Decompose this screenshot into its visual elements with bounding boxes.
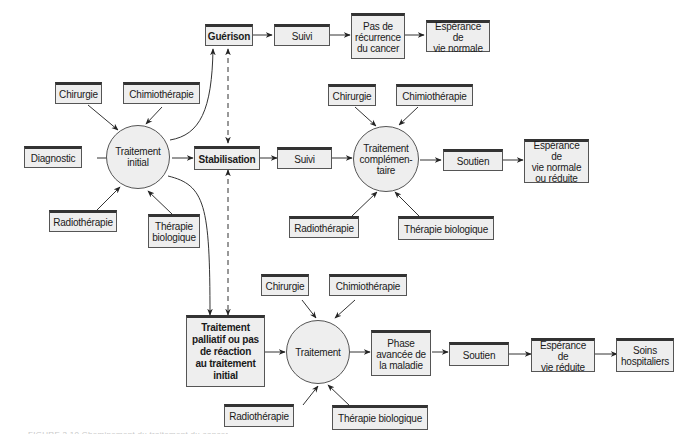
node-chimiotherapie-bottom: Chimiothérapie	[329, 274, 407, 296]
node-chimiotherapie-complementaire: Chimiothérapie	[396, 84, 473, 106]
node-diagnostic: Diagnostic	[24, 146, 82, 168]
node-soins-hospitaliers: Soins hospitaliers	[616, 338, 674, 372]
cancer-treatment-flowchart: Guérison Suivi Pas de récurrence du canc…	[0, 0, 692, 444]
node-pas-recurrence: Pas de récurrence du cancer	[351, 13, 405, 59]
node-traitement-complementaire: Traitement complémen- taire	[353, 126, 419, 192]
node-chirurgie-initial: Chirurgie	[55, 82, 102, 104]
node-chimiotherapie-initial: Chimiothérapie	[123, 82, 200, 104]
node-soutien-bottom: Soutien	[449, 342, 509, 366]
node-traitement-bottom: Traitement	[286, 320, 350, 384]
node-stabilisation: Stabilisation	[194, 146, 260, 170]
node-traitement-palliatif: Traitement palliatif ou pas de réaction …	[186, 315, 265, 387]
node-esperance-reduite: Espérance de vie réduite	[531, 338, 595, 372]
node-phase-avancee: Phase avancée de la maladie	[371, 330, 431, 376]
node-soutien-middle: Soutien	[443, 149, 503, 171]
node-chirurgie-complementaire: Chirurgie	[328, 84, 376, 106]
node-chirurgie-bottom: Chirurgie	[261, 274, 309, 296]
node-suivi-middle: Suivi	[277, 147, 332, 169]
node-radiotherapie-complementaire: Radiothérapie	[289, 216, 359, 238]
node-therapie-biologique-bottom: Thérapie biologique	[332, 405, 428, 430]
node-traitement-initial: Traitement initial	[106, 125, 170, 189]
node-esperance-normale: Espérance de vie normale	[426, 20, 490, 52]
node-therapie-biologique-complementaire: Thérapie biologique	[398, 216, 494, 240]
node-guerison: Guérison	[205, 24, 253, 46]
figure-caption: FIGURE 2.10 Cheminement du traitement du…	[28, 428, 228, 434]
node-esperance-normale-reduite: Espérance de vie normale ou réduite	[524, 139, 589, 183]
node-therapie-biologique-initial: Thérapie biologique	[148, 214, 200, 248]
node-radiotherapie-bottom: Radiothérapie	[224, 404, 294, 427]
node-radiotherapie-initial: Radiothérapie	[49, 210, 117, 232]
node-suivi-top: Suivi	[274, 24, 330, 46]
